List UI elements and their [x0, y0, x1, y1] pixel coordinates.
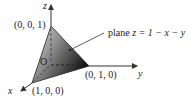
z-axis-label: z	[42, 0, 47, 11]
annotation-dot	[69, 49, 71, 51]
vertex-label-z: (0, 0, 1)	[14, 19, 46, 31]
x-axis-label: x	[7, 85, 13, 96]
plane-diagram: z y x (0, 0, 1) (0, 1, 0) (1, 0, 0) O pl…	[0, 0, 191, 101]
vertex-label-x: (1, 0, 0)	[32, 85, 64, 97]
origin-label: O	[40, 56, 47, 67]
annotation-text: plane z = 1 − x − y	[108, 27, 186, 38]
y-axis-label: y	[137, 68, 143, 79]
annotation-leader	[70, 33, 104, 50]
annotation-equation: z = 1 − x − y	[131, 27, 186, 38]
annotation-prefix: plane	[108, 27, 132, 38]
vertex-label-y: (0, 1, 0)	[85, 69, 117, 81]
x-axis	[21, 83, 32, 91]
